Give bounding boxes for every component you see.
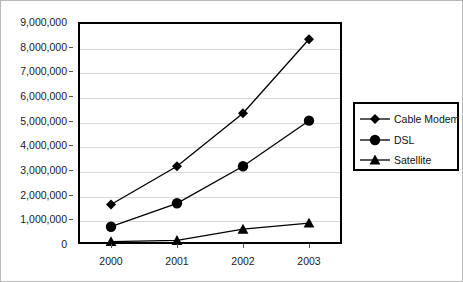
legend-item-cable-modem: Cable Modem	[360, 110, 459, 128]
x-axis-tick-mark	[309, 244, 310, 248]
x-axis-tick-mark	[177, 244, 178, 248]
series-line-satellite	[111, 223, 309, 242]
y-axis-tick-label: 1,000,000	[20, 213, 67, 225]
y-axis-tick-label: 6,000,000	[20, 90, 67, 102]
triangle-data-point-marker	[304, 218, 315, 228]
y-axis-tick-mark	[69, 71, 73, 72]
diamond-marker-icon	[360, 112, 390, 126]
circle-data-point-marker	[370, 135, 380, 145]
y-axis-tick-mark	[69, 96, 73, 97]
y-axis-tick-label: 4,000,000	[20, 139, 67, 151]
x-axis-tick-label: 2001	[165, 255, 188, 267]
legend-item-label: Cable Modem	[394, 113, 459, 125]
x-axis-tick-label: 2002	[231, 255, 254, 267]
y-axis-tick-mark	[69, 121, 73, 122]
line-chart-figure: 01,000,0002,000,0003,000,0004,000,0005,0…	[0, 0, 463, 282]
legend-item-dsl: DSL	[360, 131, 414, 149]
y-axis-tick-mark	[69, 145, 73, 146]
x-axis-tick-mark	[111, 244, 112, 248]
y-axis-tick-mark	[69, 47, 73, 48]
x-axis-tick-label: 2000	[99, 255, 122, 267]
diamond-data-point-marker	[370, 114, 380, 124]
y-axis-tick-label: 9,000,000	[20, 16, 67, 28]
x-axis-tick-label: 2003	[297, 255, 320, 267]
y-axis-tick-label: 3,000,000	[20, 164, 67, 176]
y-axis: 01,000,0002,000,0003,000,0004,000,0005,0…	[1, 22, 73, 244]
circle-data-point-marker	[238, 161, 248, 171]
circle-marker-icon	[360, 133, 390, 147]
y-axis-tick-label: 7,000,000	[20, 65, 67, 77]
series-line-cable-modem	[111, 39, 309, 204]
x-axis: 2000200120022003	[78, 251, 342, 275]
series-layer	[78, 22, 342, 244]
legend-item-label: Satellite	[394, 154, 431, 166]
legend-item-label: DSL	[394, 134, 414, 146]
circle-data-point-marker	[304, 115, 314, 125]
y-axis-tick-label: 0	[61, 238, 67, 250]
circle-data-point-marker	[172, 198, 182, 208]
series-line-dsl	[111, 121, 309, 227]
chart-legend: Cable ModemDSLSatellite	[353, 102, 459, 171]
y-axis-tick-label: 8,000,000	[20, 41, 67, 53]
triangle-marker-icon	[360, 153, 390, 167]
legend-item-satellite: Satellite	[360, 151, 431, 169]
y-axis-tick-label: 5,000,000	[20, 115, 67, 127]
y-axis-tick-label: 2,000,000	[20, 189, 67, 201]
diamond-data-point-marker	[106, 200, 116, 210]
y-axis-tick-mark	[69, 170, 73, 171]
circle-data-point-marker	[106, 222, 116, 232]
y-axis-tick-mark	[69, 219, 73, 220]
x-axis-tick-mark	[243, 244, 244, 248]
y-axis-tick-mark	[69, 195, 73, 196]
